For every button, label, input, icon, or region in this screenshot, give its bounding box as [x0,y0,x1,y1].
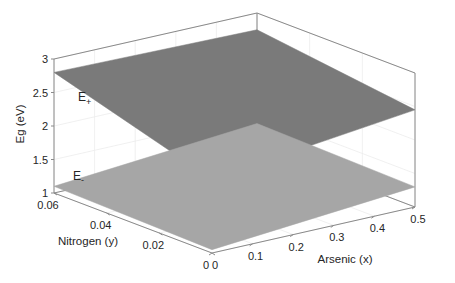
y-axis-label: Nitrogen (y) [58,235,118,247]
surface-chart: 00.10.20.30.40.500.020.040.0611.522.53 E… [0,0,455,283]
z-tick-label: 3 [42,53,48,65]
x-tick-label: 0.5 [410,213,425,225]
x-tick-label: 0.2 [289,241,304,253]
x-tick-label: 0.1 [248,250,263,262]
y-tick-label: 0 [203,259,209,271]
z-tick-label: 1 [42,187,48,199]
e-minus-label: E- [73,169,84,185]
z-tick-label: 2 [42,120,48,132]
surfaces [54,30,415,250]
z-tick-label: 1.5 [33,154,48,166]
y-tick-label: 0.06 [37,199,58,211]
y-tick-label: 0.04 [90,219,111,231]
x-axis-label: Arsenic (x) [318,253,373,265]
x-tick-label: 0.4 [370,222,385,234]
z-tick-label: 2.5 [33,87,48,99]
z-axis-label: Eg (eV) [14,104,26,143]
y-tick-label: 0.02 [143,239,164,251]
x-tick-label: 0 [212,259,218,271]
x-tick [209,253,212,255]
y-tick [212,253,215,255]
x-tick-label: 0.3 [329,231,344,243]
